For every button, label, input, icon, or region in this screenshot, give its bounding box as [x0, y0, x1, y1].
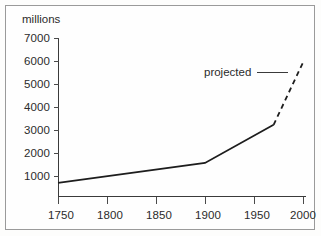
x-tick-label: 1850	[146, 209, 172, 221]
y-tick-label: 2000	[14, 147, 50, 159]
y-tick-label: 1000	[14, 170, 50, 182]
projected-annotation-label: projected	[204, 66, 251, 78]
chart-axes	[59, 39, 306, 197]
x-tick-label: 2000	[290, 209, 316, 221]
y-tick-label: 4000	[14, 101, 50, 113]
x-tick-label: 1750	[48, 209, 74, 221]
y-axis-ticks	[54, 39, 59, 177]
population-line	[58, 125, 274, 183]
figure-container: millions 7000 60	[0, 0, 321, 236]
x-tick-label: 1950	[244, 209, 270, 221]
x-tick-label: 1900	[195, 209, 221, 221]
y-tick-label: 3000	[14, 124, 50, 136]
y-tick-label: 6000	[14, 55, 50, 67]
x-tick-label: 1800	[97, 209, 123, 221]
y-tick-label: 7000	[14, 32, 50, 44]
x-axis-ticks	[59, 197, 304, 204]
y-tick-label: 5000	[14, 78, 50, 90]
